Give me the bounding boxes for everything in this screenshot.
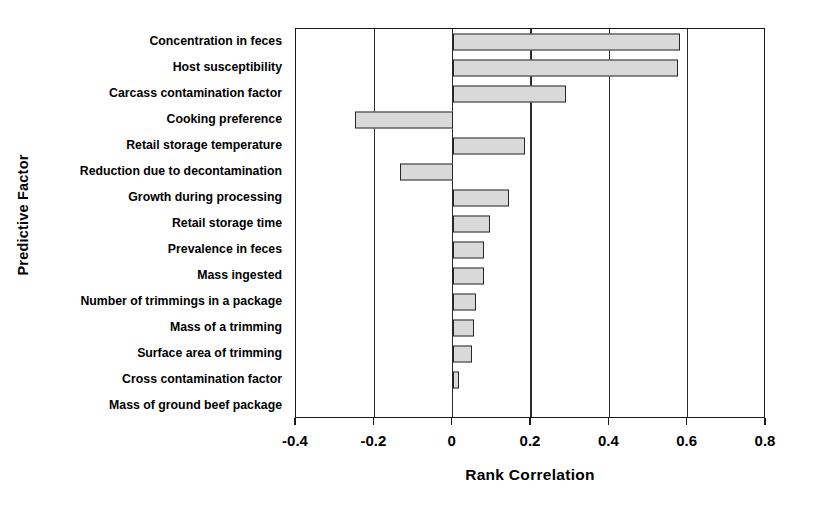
category-label: Retail storage time (172, 217, 282, 229)
category-label: Mass ingested (197, 269, 282, 281)
bar (453, 268, 484, 285)
bar (453, 216, 490, 233)
bar (453, 346, 473, 363)
y-axis-title: Predictive Factor (8, 0, 38, 430)
category-label: Number of trimmings in a package (80, 295, 282, 307)
category-label: Cooking preference (167, 113, 282, 125)
bar (453, 138, 525, 155)
x-tick (764, 418, 765, 425)
x-tick-label: 0.6 (676, 432, 697, 449)
bar (453, 320, 475, 337)
x-tick-label: 0 (447, 432, 455, 449)
x-tick (373, 418, 374, 425)
bar (453, 190, 510, 207)
x-axis-tick-labels: -0.4-0.200.20.40.60.8 (255, 432, 805, 456)
category-label: Carcass contamination factor (109, 87, 282, 99)
x-tick (294, 418, 295, 425)
x-tick (529, 418, 530, 425)
category-label: Concentration in feces (149, 35, 282, 47)
category-label: Mass of a trimming (170, 321, 282, 333)
category-label: Reduction due to decontamination (80, 165, 282, 177)
category-label: Surface area of trimming (137, 347, 282, 359)
bar (453, 34, 680, 51)
gridline (687, 29, 688, 417)
x-tick-label: -0.2 (360, 432, 386, 449)
x-tick (608, 418, 609, 425)
category-label: Prevalence in feces (168, 243, 282, 255)
category-label: Growth during processing (128, 191, 282, 203)
plot-area (295, 28, 765, 418)
y-axis-title-text: Predictive Factor (15, 154, 31, 275)
x-tick-label: 0.4 (598, 432, 619, 449)
category-label: Cross contamination factor (122, 373, 282, 385)
x-tick-label: -0.4 (282, 432, 308, 449)
bar (453, 60, 678, 77)
bar (453, 86, 567, 103)
category-label: Mass of ground beef package (109, 399, 282, 411)
x-axis-title: Rank Correlation (295, 466, 765, 484)
bar (400, 164, 453, 181)
bar (453, 242, 484, 259)
x-axis-ticks (295, 418, 765, 428)
bar (453, 294, 477, 311)
gridline (609, 29, 610, 417)
gridline (374, 29, 375, 417)
x-tick-label: 0.2 (520, 432, 541, 449)
x-tick-label: 0.8 (755, 432, 776, 449)
category-label: Retail storage temperature (126, 139, 282, 151)
rank-correlation-tornado-chart: Predictive Factor Concentration in feces… (0, 0, 814, 523)
y-axis-category-labels: Concentration in fecesHost susceptibilit… (40, 28, 288, 418)
x-tick (686, 418, 687, 425)
category-label: Host susceptibility (173, 61, 282, 73)
bar (453, 372, 459, 389)
bar (355, 112, 453, 129)
x-tick (451, 418, 452, 425)
